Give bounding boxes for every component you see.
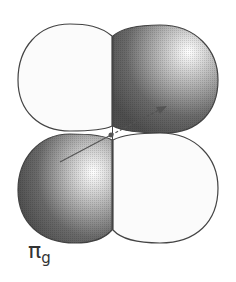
orbital-subscript: g	[41, 249, 51, 267]
lobe-top-left	[18, 24, 112, 131]
orbital-label: πg	[28, 238, 51, 263]
lobe-top-right	[113, 25, 218, 133]
lobe-bottom-left	[18, 134, 112, 243]
orbital-symbol: π	[28, 238, 41, 263]
lobe-bottom-right	[113, 133, 218, 243]
